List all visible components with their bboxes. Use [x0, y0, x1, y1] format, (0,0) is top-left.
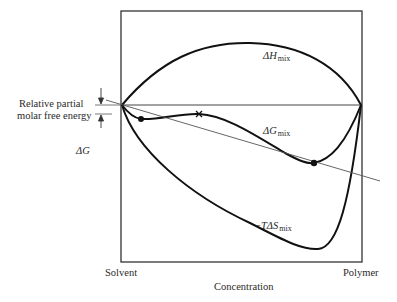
gibbs-curve — [122, 105, 361, 163]
x-axis-left-label: Solvent — [105, 267, 137, 278]
tangent-point-left — [138, 116, 144, 122]
enthalpy-label: ΔHmix — [263, 50, 290, 64]
dimension-arrow-down-icon — [99, 88, 104, 104]
annotation-molar-free-energy: molar free energy — [17, 110, 91, 121]
annotation-relative-partial: Relative partial — [19, 98, 83, 109]
entropy-symbol: TΔS — [261, 220, 278, 231]
entropy-subscript: mix — [279, 224, 291, 233]
annotation-delta-g: ΔG — [76, 145, 90, 156]
entropy-label: −TΔSmix — [255, 220, 292, 234]
enthalpy-symbol: ΔH — [263, 50, 277, 61]
gibbs-label: ΔGmix — [263, 125, 290, 139]
tangent-point-right — [311, 160, 317, 166]
x-axis-right-label: Polymer — [343, 267, 379, 278]
free-energy-diagram — [0, 0, 397, 302]
x-axis-title: Concentration — [214, 281, 273, 292]
gibbs-symbol: ΔG — [263, 125, 277, 136]
enthalpy-subscript: mix — [278, 54, 290, 63]
dimension-arrow-up-icon — [99, 115, 104, 128]
gibbs-subscript: mix — [278, 129, 290, 138]
plot-frame — [121, 11, 362, 262]
enthalpy-curve — [122, 43, 361, 105]
common-tangent-line — [106, 100, 380, 181]
